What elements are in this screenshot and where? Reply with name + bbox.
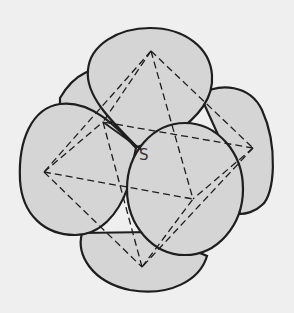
- diagram-canvas: S: [0, 0, 294, 313]
- label-s: S: [139, 146, 149, 164]
- octahedron-orbital-diagram: S: [0, 0, 294, 313]
